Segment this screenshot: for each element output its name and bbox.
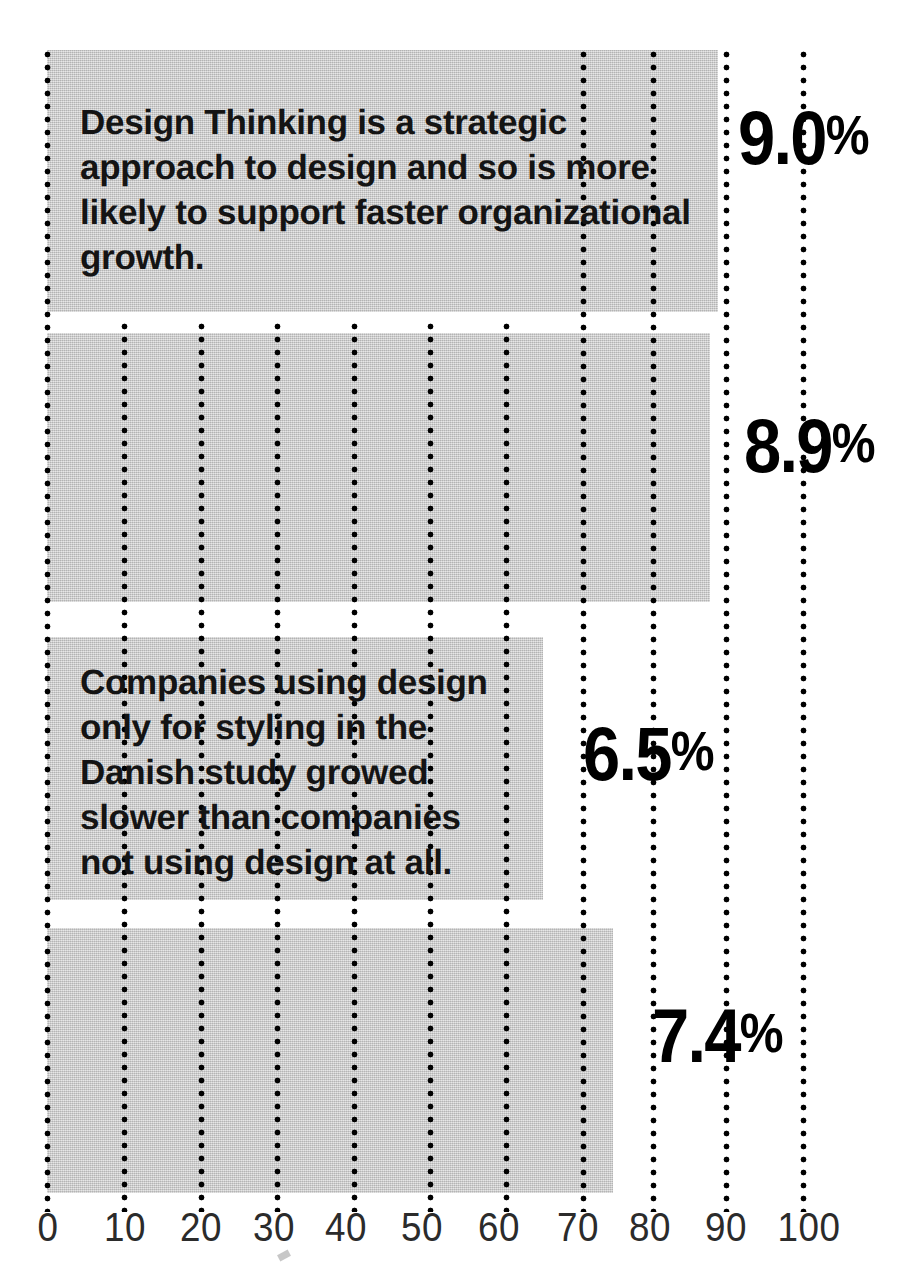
gridline-100 xyxy=(800,46,807,1212)
bar-3-annotation: Companies using design only for styling … xyxy=(80,660,488,885)
bar-2-value-label: 8.9% xyxy=(744,404,875,485)
x-tick-label-10: 10 xyxy=(104,1204,146,1250)
x-tick-label-70: 70 xyxy=(557,1204,599,1250)
bar-2 xyxy=(47,333,710,602)
percent-sign: % xyxy=(826,103,869,166)
bar-4 xyxy=(47,928,613,1193)
x-tick-label-30: 30 xyxy=(253,1204,295,1250)
bar-chart: Design Thinking is a strategic approach … xyxy=(0,0,924,1288)
bar-4-value-label: 7.4% xyxy=(652,994,783,1075)
gridline-60 xyxy=(503,318,510,1212)
x-axis: 0102030405060708090100 xyxy=(0,1198,924,1288)
plot-area: Design Thinking is a strategic approach … xyxy=(0,0,924,1198)
percent-sign: % xyxy=(832,411,875,474)
bar-1-value-label: 9.0% xyxy=(738,96,869,177)
x-tick-label-20: 20 xyxy=(180,1204,222,1250)
x-tick-label-100: 100 xyxy=(778,1204,841,1250)
x-tick-label-50: 50 xyxy=(401,1204,443,1250)
percent-sign: % xyxy=(671,719,714,782)
x-tick-label-90: 90 xyxy=(705,1204,747,1250)
x-tick-label-0: 0 xyxy=(38,1204,59,1250)
gridline-0 xyxy=(44,46,51,1212)
value-number: 6.5 xyxy=(583,711,671,796)
value-number: 9.0 xyxy=(738,95,826,180)
x-tick-label-80: 80 xyxy=(629,1204,671,1250)
value-number: 7.4 xyxy=(652,993,740,1078)
bar-3-value-label: 6.5% xyxy=(583,712,714,793)
x-tick-label-40: 40 xyxy=(325,1204,367,1250)
percent-sign: % xyxy=(740,1001,783,1064)
bar-1-annotation: Design Thinking is a strategic approach … xyxy=(80,100,691,280)
x-tick-label-60: 60 xyxy=(478,1204,520,1250)
value-number: 8.9 xyxy=(744,403,832,488)
